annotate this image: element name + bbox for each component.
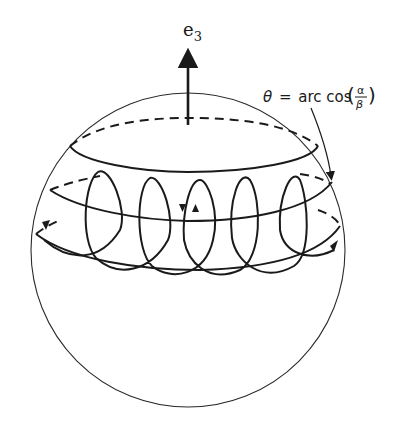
fraction-denominator: β <box>355 98 363 111</box>
theta-symbol: θ <box>263 88 272 106</box>
fraction-numerator: α <box>357 84 364 97</box>
axis-label: e3 <box>183 19 202 44</box>
angle-annotation: θ = arc cos ( α β ) <box>263 83 376 111</box>
svg-text:θ = arc cos: θ = arc cos <box>263 88 352 106</box>
loop-arrow-up <box>192 204 199 212</box>
right-end-arrow <box>330 240 338 252</box>
lower-ellipse-back-right <box>318 210 340 226</box>
top-ellipse-front <box>70 146 318 172</box>
sphere-diagram: e3 θ = arc cos ( α β ) <box>0 0 400 426</box>
lower-ellipse-front <box>36 226 340 270</box>
svg-text:): ) <box>368 83 376 107</box>
top-ellipse-back <box>70 118 318 146</box>
nutation-loops <box>44 171 334 274</box>
sphere-outline <box>31 93 345 407</box>
svg-text:(: ( <box>347 83 355 107</box>
